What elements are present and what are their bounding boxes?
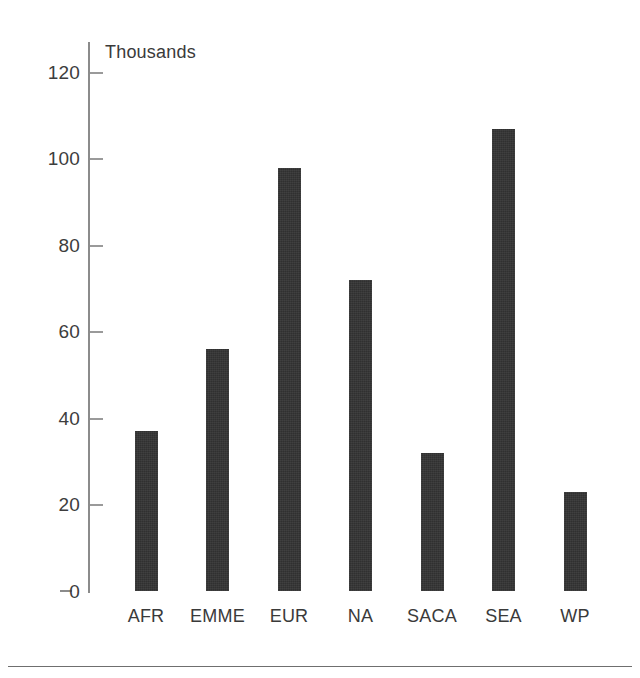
bar-emme[interactable] (206, 349, 229, 591)
bars-layer (0, 0, 640, 678)
bar-na[interactable] (349, 280, 372, 591)
bar-chart-figure: Thousands 120 100 80 60 40 20 0 AFR EMM (0, 0, 640, 678)
bar-afr[interactable] (135, 431, 158, 591)
bottom-divider (8, 666, 632, 667)
x-category-label-wp: WP (527, 606, 623, 627)
bar-wp[interactable] (564, 492, 587, 591)
bar-saca[interactable] (421, 453, 444, 591)
bar-eur[interactable] (278, 168, 301, 591)
bar-sea[interactable] (492, 129, 515, 591)
